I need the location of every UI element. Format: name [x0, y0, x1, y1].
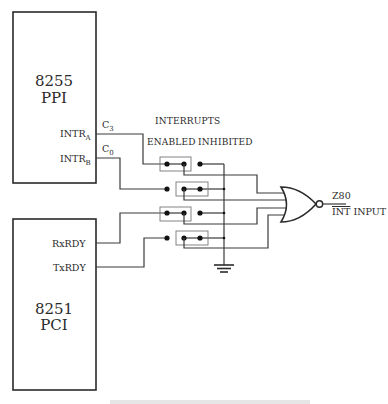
pci-name: PCI: [40, 316, 68, 334]
wire-gate-in-4: [184, 215, 286, 248]
pin-dot: [164, 235, 169, 240]
pin-dot: [197, 210, 202, 215]
ground-icon: [214, 265, 234, 272]
junction-dot: [223, 212, 226, 215]
port-c3-label: C3: [102, 119, 114, 133]
jumper-switch-3[interactable]: [160, 207, 203, 221]
gate-input-wires: [184, 164, 288, 248]
pci-chip: RxRDY TxRDY 8251 PCI: [13, 219, 96, 390]
interrupt-circuit-diagram: 8255 PPI INTRA INTRB C3 C0 RxRDY TxRDY 8…: [0, 0, 388, 404]
pci-pin-rxrdy: RxRDY: [52, 238, 86, 249]
output-z80-label: Z80: [332, 190, 351, 201]
junction-dot: [223, 237, 226, 240]
inhibited-label: INHIBITED: [198, 137, 253, 147]
jumper-switch-1[interactable]: [160, 157, 203, 171]
inhibit-bus: [200, 164, 225, 265]
pin-dot: [197, 235, 202, 240]
ppi-chip: 8255 PPI INTRA INTRB: [13, 12, 96, 183]
pin-dot: [164, 161, 169, 166]
enabled-label: ENABLED: [147, 137, 196, 147]
figure-caption-cutoff: [110, 400, 310, 404]
pci-pin-txrdy: TxRDY: [53, 262, 86, 273]
jumper-switch-2[interactable]: [164, 182, 208, 196]
pin-dot: [197, 186, 202, 191]
interrupts-header: INTERRUPTS: [155, 116, 220, 126]
jumper-switch-4[interactable]: [164, 231, 208, 245]
wire-gate-in-3: [184, 208, 288, 224]
wire-c0: [96, 158, 167, 189]
port-c0-label: C0: [102, 143, 114, 157]
wire-txrdy: [96, 238, 167, 267]
pin-dot: [197, 161, 202, 166]
pin-dot: [164, 210, 169, 215]
ppi-name: PPI: [41, 89, 67, 107]
ppi-part-number: 8255: [35, 72, 73, 90]
inverter-bubble: [316, 201, 322, 207]
junction-dot: [223, 188, 226, 191]
output-int-input-label: INT INPUT: [332, 206, 387, 217]
pin-dot: [164, 186, 169, 191]
